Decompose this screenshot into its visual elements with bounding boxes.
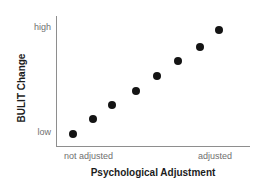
data-point xyxy=(69,130,77,138)
plot-area xyxy=(56,16,250,147)
data-point xyxy=(108,101,116,109)
data-point xyxy=(89,115,97,123)
data-point xyxy=(174,57,182,65)
y-axis-tick-label-low: low xyxy=(37,127,51,137)
y-axis-tick-label-high: high xyxy=(34,22,51,32)
x-axis-tick-label-not-adjusted: not adjusted xyxy=(64,151,113,161)
x-axis-title: Psychological Adjustment xyxy=(56,167,250,179)
data-point xyxy=(196,43,204,51)
data-point xyxy=(132,87,140,95)
chart-screenshot: high low not adjusted adjusted BULIT Cha… xyxy=(0,0,264,189)
data-point xyxy=(215,26,223,34)
y-axis-title: BULIT Change xyxy=(15,23,29,154)
data-point xyxy=(153,72,161,80)
x-axis-tick-label-adjusted: adjusted xyxy=(198,151,232,161)
